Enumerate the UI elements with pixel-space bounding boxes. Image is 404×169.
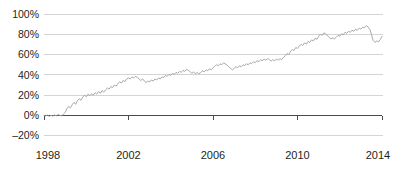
- y-axis-tick-label: 40%: [18, 69, 39, 81]
- x-axis-tick-label: 2006: [201, 149, 225, 161]
- data-line-cumulative-return: [44, 26, 382, 117]
- y-axis-labels-group: 100%80%60%40%20%0%‒20%: [12, 8, 39, 142]
- y-axis-tick-label: 0%: [24, 109, 39, 121]
- x-axis-tick-label: 2014: [366, 149, 390, 161]
- y-axis-tick-label: 20%: [18, 89, 39, 101]
- x-axis-tick-label: 2010: [285, 149, 309, 161]
- y-axis-tick-label: ‒20%: [12, 129, 39, 141]
- data-series-group: [44, 26, 382, 117]
- axis-ticks-group: [44, 116, 382, 120]
- chart-container: 100%80%60%40%20%0%‒20% 19982002200620102…: [0, 0, 404, 169]
- y-axis-tick-label: 80%: [18, 28, 39, 40]
- line-chart: 100%80%60%40%20%0%‒20% 19982002200620102…: [0, 0, 404, 169]
- y-axis-tick-label: 60%: [18, 48, 39, 60]
- x-axis-tick-label: 2002: [116, 149, 140, 161]
- y-axis-tick-label: 100%: [12, 8, 39, 20]
- x-axis-labels-group: 19982002200620102014: [36, 149, 390, 161]
- x-axis-tick-label: 1998: [36, 149, 60, 161]
